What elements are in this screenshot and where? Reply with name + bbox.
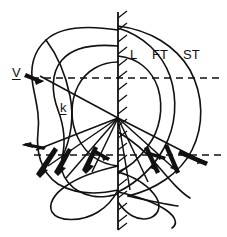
curve-ST-lower [128,196,178,206]
figure-canvas: L FT ST V k [0,0,227,237]
ray-right-4 [118,118,130,190]
label-mode-ST: ST [183,48,200,61]
ray-k-incident [40,76,118,118]
wave-surface-diagram [0,0,227,237]
label-mode-FT: FT [152,48,168,61]
arrow-lower-left-1 [22,142,46,150]
arrow-V [24,73,44,85]
ray-right-2 [118,118,178,172]
label-mode-L: L [130,48,137,61]
label-wave-vector: k [60,101,67,114]
label-velocity-vector: V [12,66,21,79]
arrow-right-1 [144,146,160,174]
